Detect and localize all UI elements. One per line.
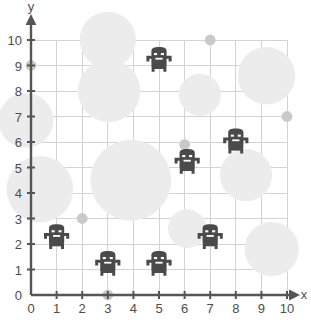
y-tick-label: 2 [15,237,22,252]
y-axis-title: y [28,0,35,14]
bubble-marker [179,74,221,116]
x-tick-label: 10 [280,301,294,316]
y-tick-label: 1 [15,263,22,278]
x-tick-label: 5 [155,301,162,316]
chart-svg: 012345678910 012345678910 x y [0,0,311,324]
bubble-marker [238,47,295,104]
x-tick-label: 2 [79,301,86,316]
x-tick-label: 3 [104,301,111,316]
bubble-marker [245,222,299,276]
bubble-marker [220,149,272,201]
y-tick-label: 10 [8,33,22,48]
coordinate-plane-chart: 012345678910 012345678910 x y [0,0,311,324]
x-tick-label: 9 [258,301,265,316]
x-tick-label: 8 [232,301,239,316]
y-tick-label: 7 [15,110,22,125]
x-tick-label: 1 [53,301,60,316]
y-tick-label: 3 [15,212,22,227]
bubble-marker [90,140,171,221]
x-axis-title: x [301,287,308,302]
y-tick-label: 8 [15,84,22,99]
y-tick-label: 0 [15,288,22,303]
dot-marker [205,35,216,46]
dot-marker [282,111,293,122]
x-tick-label: 4 [130,301,137,316]
y-tick-label: 4 [15,186,22,201]
bubble-marker [0,93,53,148]
dot-marker [77,213,88,224]
dot-marker [179,139,190,150]
x-tick-label: 0 [27,301,34,316]
bubble-marker [80,12,136,68]
bubble-marker [78,60,140,122]
y-tick-label: 5 [15,161,22,176]
x-tick-label: 7 [207,301,214,316]
x-tick-label: 6 [181,301,188,316]
y-tick-label: 6 [15,135,22,150]
bubble-marker [168,210,206,248]
y-tick-label: 9 [15,59,22,74]
